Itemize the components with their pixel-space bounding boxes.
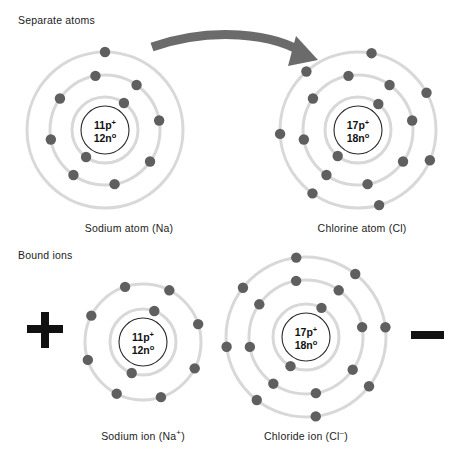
caption-sodium-atom: Sodium atom (Na) <box>85 222 173 234</box>
electron <box>307 188 317 198</box>
electron <box>362 179 372 189</box>
electron <box>285 361 295 371</box>
electron <box>308 93 318 103</box>
positive-charge-sign <box>27 312 63 348</box>
electron <box>81 152 91 162</box>
electron <box>164 285 174 295</box>
electron <box>398 156 408 166</box>
electron <box>149 306 159 316</box>
electron <box>407 115 417 125</box>
electron <box>343 71 353 81</box>
atom-chlorine-atom: 17p+18no <box>275 48 436 210</box>
electron <box>90 71 100 81</box>
electron <box>127 368 137 378</box>
atom-chloride-ion: 17p+18no <box>221 252 390 421</box>
electron <box>384 80 394 90</box>
electron <box>109 179 119 189</box>
electron <box>131 80 141 90</box>
electron <box>119 98 129 108</box>
negative-charge-sign <box>411 331 444 339</box>
electron <box>291 276 301 286</box>
atom-sodium-atom: 11p+12no <box>27 47 183 208</box>
electron <box>364 381 374 391</box>
electron <box>254 299 264 309</box>
diagram-canvas: Separate atoms Bound ions 11p+12no17p+18… <box>0 0 465 459</box>
electron <box>425 155 435 165</box>
electron <box>268 378 278 388</box>
caption-sodium-ion-close: ) <box>181 430 185 442</box>
electron <box>252 395 262 405</box>
electron <box>311 388 321 398</box>
electron <box>221 342 231 352</box>
caption-chlorine-atom: Chlorine atom (Cl) <box>318 222 407 234</box>
electron <box>332 151 342 161</box>
electron <box>301 66 311 76</box>
electron <box>299 134 309 144</box>
caption-chloride-ion: Chloride ion (Cl–) <box>264 428 348 442</box>
electron <box>111 388 121 398</box>
caption-chloride-ion-close: ) <box>344 430 348 442</box>
electron <box>374 200 384 210</box>
electron <box>156 392 166 402</box>
electron <box>373 99 383 109</box>
electron <box>46 134 56 144</box>
electron <box>421 88 431 98</box>
electron <box>189 363 199 373</box>
atom-sodium-ion: 11p+12no <box>83 282 204 403</box>
caption-chloride-ion-main: Chloride ion (Cl <box>264 430 340 442</box>
electron <box>100 47 110 57</box>
atoms-layer: 11p+12no17p+18no11p+12no17p+18no <box>27 47 436 422</box>
electron <box>333 285 343 295</box>
electron <box>275 129 285 139</box>
electron <box>193 319 203 329</box>
electron <box>83 355 93 365</box>
electron <box>347 364 357 374</box>
electron <box>68 170 78 180</box>
electron <box>366 48 376 58</box>
electron <box>238 283 248 293</box>
electron <box>311 411 321 421</box>
electron <box>55 93 65 103</box>
electron <box>145 156 155 166</box>
caption-sodium-ion: Sodium ion (Na+) <box>101 428 185 442</box>
electron <box>321 170 331 180</box>
electron <box>245 342 255 352</box>
electron <box>291 252 301 262</box>
electron <box>380 322 390 332</box>
electron <box>154 115 164 125</box>
electron <box>86 310 96 320</box>
electron <box>316 303 326 313</box>
electron <box>120 282 130 292</box>
electron-transfer-arrow <box>152 35 318 66</box>
electron <box>357 322 367 332</box>
electron <box>350 269 360 279</box>
caption-sodium-ion-main: Sodium ion (Na <box>101 430 176 442</box>
